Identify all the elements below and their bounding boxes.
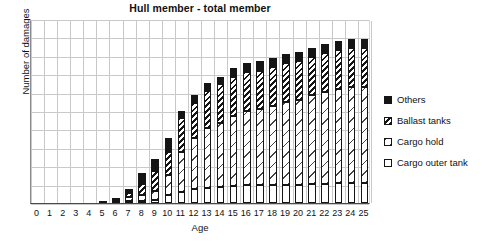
bar-segment — [321, 53, 329, 92]
chart-title: Hull member - total member — [0, 2, 400, 14]
x-axis-tick-label: 23 — [331, 206, 344, 220]
bar-segment — [269, 185, 277, 203]
legend-item[interactable]: Cargo outer tank — [384, 157, 482, 168]
bar-segment — [321, 92, 329, 184]
bar-stack[interactable] — [191, 21, 199, 203]
bar-stack[interactable] — [230, 21, 238, 203]
bar-segment — [256, 61, 264, 70]
x-axis-tick-label: 21 — [305, 206, 318, 220]
bar-segment — [191, 138, 199, 190]
bar-stack[interactable] — [112, 21, 120, 203]
bar-stack[interactable] — [243, 21, 251, 203]
bar-segment — [361, 39, 369, 48]
chart-container: Hull member - total member Number of dam… — [0, 0, 482, 251]
bar-segment — [321, 184, 329, 203]
bar-segment — [151, 191, 159, 200]
bar-stack[interactable] — [348, 21, 356, 203]
bar-segment — [125, 201, 133, 203]
bar-segment — [217, 123, 225, 187]
bar-stack[interactable] — [99, 21, 107, 203]
x-axis-tick-label: 25 — [357, 206, 370, 220]
bar-segment — [282, 54, 290, 63]
bar-segment — [243, 111, 251, 185]
bar-stack[interactable] — [269, 21, 277, 203]
bar-stack[interactable] — [47, 21, 55, 203]
bar-stack[interactable] — [34, 21, 42, 203]
bar-segment — [138, 201, 146, 203]
bar-segment — [243, 185, 251, 203]
legend-label: Cargo outer tank — [397, 157, 468, 168]
bar-segment — [256, 185, 264, 203]
bar-segment — [178, 192, 186, 203]
bar-segment — [321, 44, 329, 53]
bar-segment — [269, 58, 277, 67]
bar-segment — [269, 67, 277, 106]
bar-segment — [138, 184, 146, 195]
bar-stack[interactable] — [86, 21, 94, 203]
x-axis-tick-label: 22 — [318, 206, 331, 220]
bar-stack[interactable] — [217, 21, 225, 203]
bar-segment — [348, 48, 356, 87]
bar-stack[interactable] — [308, 21, 316, 203]
x-axis-tick-label: 6 — [108, 206, 121, 220]
legend-item[interactable]: Cargo hold — [384, 136, 482, 147]
bar-segment — [295, 52, 303, 61]
x-axis-tick-label: 16 — [239, 206, 252, 220]
bar-stack[interactable] — [361, 21, 369, 203]
bar-stack[interactable] — [60, 21, 68, 203]
bar-stack[interactable] — [321, 21, 329, 203]
bar-segment — [191, 103, 199, 138]
bar-segment — [256, 109, 264, 184]
bar-segment — [165, 138, 173, 153]
bar-stack[interactable] — [335, 21, 343, 203]
bar-stack[interactable] — [178, 21, 186, 203]
bar-segment — [178, 152, 186, 192]
bar-stack[interactable] — [73, 21, 81, 203]
x-axis-ticks: 0123456789101112131415161718192021222324… — [30, 206, 370, 220]
bar-segment — [308, 95, 316, 183]
x-axis-tick-label: 3 — [69, 206, 82, 220]
bar-segment — [230, 77, 238, 116]
plot-area — [30, 20, 370, 204]
bar-stack[interactable] — [165, 21, 173, 203]
x-axis-tick-label: 1 — [43, 206, 56, 220]
bar-segment — [151, 159, 159, 171]
bar-segment — [178, 118, 186, 151]
bar-segment — [269, 106, 277, 185]
x-axis-tick-label: 9 — [148, 206, 161, 220]
bar-segment — [335, 41, 343, 50]
x-axis-tick-label: 2 — [56, 206, 69, 220]
bar-segment — [204, 83, 212, 90]
bar-stack[interactable] — [282, 21, 290, 203]
bar-segment — [99, 201, 107, 203]
bar-segment — [165, 195, 173, 203]
legend-label: Ballast tanks — [397, 115, 451, 126]
legend-label: Cargo hold — [397, 136, 443, 147]
legend-item[interactable]: Others — [384, 94, 482, 105]
bar-segment — [217, 77, 225, 84]
bar-segment — [295, 61, 303, 100]
x-axis-tick-label: 12 — [187, 206, 200, 220]
gridline-horizontal — [31, 204, 369, 205]
bar-stack[interactable] — [125, 21, 133, 203]
legend-item[interactable]: Ballast tanks — [384, 115, 482, 126]
x-axis-tick-label: 11 — [174, 206, 187, 220]
bar-segment — [230, 116, 238, 186]
bar-segment — [243, 72, 251, 111]
bar-segment — [348, 183, 356, 203]
legend-swatch-icon — [384, 117, 392, 125]
bar-segment — [282, 63, 290, 102]
bar-stack[interactable] — [256, 21, 264, 203]
bar-stack[interactable] — [151, 21, 159, 203]
bar-stack[interactable] — [295, 21, 303, 203]
bar-stack[interactable] — [204, 21, 212, 203]
bar-segment — [165, 152, 173, 174]
bar-segment — [348, 87, 356, 183]
bar-stack[interactable] — [138, 21, 146, 203]
gridline-vertical — [371, 21, 372, 203]
x-axis-tick-label: 5 — [95, 206, 108, 220]
bar-segment — [151, 171, 159, 191]
bar-segment — [217, 84, 225, 123]
bar-segment — [165, 175, 173, 195]
bar-segment — [308, 57, 316, 96]
